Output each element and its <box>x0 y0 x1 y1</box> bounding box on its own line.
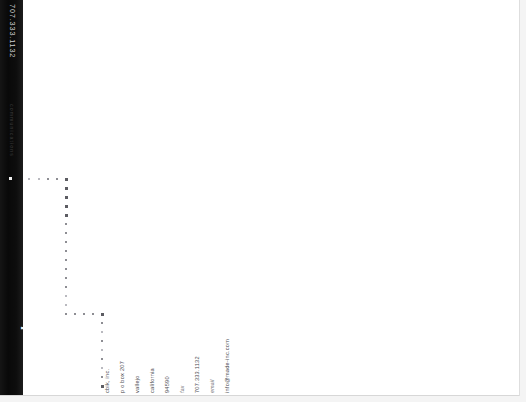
document-page: 707.333.1132 communications cbs cbik, in… <box>0 0 519 395</box>
contact-line: california <box>149 368 155 393</box>
contact-line: 707.333.1132 <box>194 356 200 393</box>
scan-background-right <box>520 0 526 402</box>
scan-background-bottom <box>0 396 526 402</box>
page-edge-bottom <box>0 395 519 396</box>
contact-line: cbik, inc. <box>104 369 110 393</box>
contact-text-block: cbik, inc.p o box 207vallejocalifornia94… <box>0 0 519 395</box>
contact-line: vallejo <box>134 375 140 393</box>
contact-line: email <box>209 379 215 393</box>
page-edge-right <box>519 0 520 396</box>
scan-canvas: 707.333.1132 communications cbs cbik, in… <box>0 0 526 402</box>
contact-line: fax <box>179 385 185 393</box>
contact-line: info@made-inc.com <box>224 339 230 393</box>
contact-line: 94590 <box>164 376 170 393</box>
contact-line: p o box 207 <box>119 361 125 393</box>
